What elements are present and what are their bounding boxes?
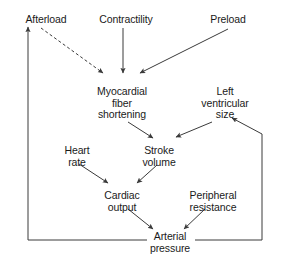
node-preload: Preload — [210, 14, 246, 26]
edge-preload-to-myocardial — [140, 29, 228, 73]
node-left-ventricular-size: Left ventricular size — [201, 86, 248, 121]
edge-myocardial-to-stroke-volume — [128, 122, 153, 138]
edge-afterload-to-myocardial — [41, 28, 103, 73]
diagram-connectors — [0, 0, 283, 268]
node-arterial-pressure: Arterial pressure — [150, 231, 190, 254]
edge-arterial-pressure-to-lv-size — [195, 118, 262, 240]
node-contractility: Contractility — [99, 14, 153, 26]
edge-lv-size-to-stroke-volume — [176, 122, 212, 137]
physiology-flow-diagram: Afterload Contractility Preload Myocardi… — [0, 0, 283, 268]
node-stroke-volume: Stroke volume — [142, 145, 175, 168]
node-heart-rate: Heart rate — [64, 145, 89, 168]
node-myocardial-fiber-shortening: Myocardial fiber shortening — [97, 86, 147, 121]
node-afterload: Afterload — [25, 14, 66, 26]
node-peripheral-resistance: Peripheral resistance — [190, 190, 237, 213]
node-cardiac-output: Cardiac output — [104, 190, 139, 213]
